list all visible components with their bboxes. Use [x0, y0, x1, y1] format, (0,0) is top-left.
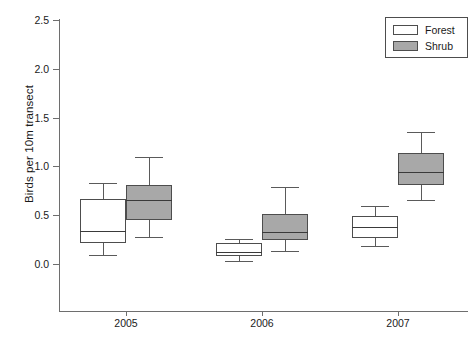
whisker-cap-upper [135, 157, 163, 158]
chart-canvas: Birds per 10m transect 0.00.51.01.52.02.… [0, 0, 475, 337]
box-body [216, 243, 262, 256]
whisker-upper [375, 206, 376, 216]
y-axis-title: Birds per 10m transect [23, 54, 35, 234]
y-tick-0.0 [53, 264, 59, 265]
chart-legend: Forest Shrub [385, 17, 468, 58]
median-line [352, 227, 398, 228]
y-tick-1.5 [53, 118, 59, 119]
x-axis-line [59, 311, 468, 312]
median-line [398, 172, 444, 173]
whisker-cap-lower [271, 251, 299, 252]
median-line [80, 231, 126, 232]
whisker-cap-upper [271, 187, 299, 188]
median-line [216, 252, 262, 253]
whisker-cap-upper [225, 239, 253, 240]
y-axis-line [59, 19, 60, 312]
whisker-cap-upper [361, 206, 389, 207]
whisker-lower [149, 220, 150, 237]
whisker-lower [421, 185, 422, 200]
whisker-upper [285, 187, 286, 214]
y-tick-2.0 [53, 69, 59, 70]
median-line [262, 232, 308, 233]
whisker-upper [103, 183, 104, 199]
whisker-upper [149, 157, 150, 185]
whisker-cap-lower [89, 255, 117, 256]
whisker-cap-upper [89, 183, 117, 184]
median-line [126, 200, 172, 201]
whisker-cap-upper [407, 132, 435, 133]
whisker-cap-lower [407, 200, 435, 201]
legend-swatch-shrub-icon [393, 41, 418, 51]
y-tick-label-2.0: 2.0 [0, 64, 49, 74]
legend-label-shrub: Shrub [425, 40, 453, 52]
y-tick-label-0.5: 0.5 [0, 210, 49, 220]
x-tick-label-2005: 2005 [96, 318, 156, 329]
y-tick-label-2.5: 2.5 [0, 15, 49, 25]
whisker-cap-lower [225, 261, 253, 262]
y-tick-0.5 [53, 215, 59, 216]
y-tick-1.0 [53, 166, 59, 167]
legend-swatch-forest-icon [393, 25, 418, 35]
box-body [80, 199, 126, 243]
whisker-cap-lower [361, 246, 389, 247]
box-body [262, 214, 308, 240]
legend-label-forest: Forest [425, 24, 455, 36]
box-body [126, 185, 172, 220]
whisker-upper [421, 132, 422, 153]
y-tick-label-0.0: 0.0 [0, 259, 49, 269]
whisker-lower [375, 238, 376, 246]
whisker-lower [285, 240, 286, 251]
box-body [398, 153, 444, 185]
y-tick-2.5 [53, 20, 59, 21]
x-tick-2007 [398, 311, 399, 316]
y-tick-label-1.0: 1.0 [0, 161, 49, 171]
whisker-cap-lower [135, 237, 163, 238]
x-tick-2005 [126, 311, 127, 316]
x-tick-2006 [262, 311, 263, 316]
x-tick-label-2007: 2007 [368, 318, 428, 329]
x-tick-label-2006: 2006 [232, 318, 292, 329]
whisker-lower [103, 243, 104, 255]
y-tick-label-1.5: 1.5 [0, 113, 49, 123]
